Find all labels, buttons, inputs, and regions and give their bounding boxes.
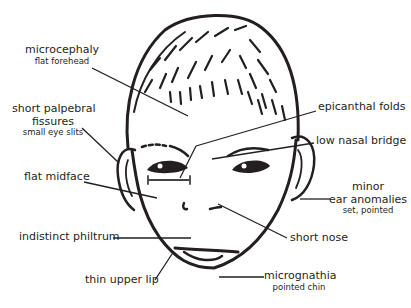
label-low-nasal-bridge: low nasal bridge — [316, 135, 406, 148]
eyes — [147, 160, 270, 173]
label-main: microcephaly — [22, 44, 102, 57]
label-sub: set, pointed — [328, 206, 408, 216]
nostril-left — [183, 203, 187, 209]
right-brow — [228, 148, 268, 156]
label-short-nose: short nose — [290, 232, 348, 245]
label-main: minor — [328, 181, 408, 194]
label-main: short palpebral — [12, 103, 94, 116]
label-indistinct-philtrum: indistinct philtrum — [19, 231, 120, 244]
label-minor-ear-anomalies: minor ear anomalies set, pointed — [328, 181, 408, 216]
label-short-palpebral-fissures: short palpebral fissures small eye slits — [12, 103, 94, 138]
label-main: low nasal bridge — [316, 135, 406, 148]
label-sub: small eye slits — [12, 128, 94, 138]
label-main: indistinct philtrum — [19, 231, 120, 244]
label-main: thin upper lip — [85, 274, 159, 287]
label-main: short nose — [290, 232, 348, 245]
label-thin-upper-lip: thin upper lip — [85, 274, 159, 287]
label-sub: flat forehead — [22, 57, 102, 67]
label-microcephaly: microcephaly flat forehead — [22, 44, 102, 66]
label-micrognathia: micrognathia pointed chin — [264, 270, 334, 292]
label-sub: pointed chin — [264, 283, 334, 293]
fissure-measure-bar — [148, 176, 190, 184]
nostril-right — [210, 207, 221, 209]
left-brow — [142, 145, 166, 147]
label-epicanthal-folds: epicanthal folds — [318, 101, 406, 114]
lower-lip — [184, 252, 222, 260]
label-main: micrognathia — [264, 270, 334, 283]
leader-lines — [82, 68, 330, 280]
label-flat-midface: flat midface — [24, 171, 90, 184]
label-main: flat midface — [24, 171, 90, 184]
hair-strokes — [145, 26, 285, 120]
label-main: epicanthal folds — [318, 101, 406, 114]
